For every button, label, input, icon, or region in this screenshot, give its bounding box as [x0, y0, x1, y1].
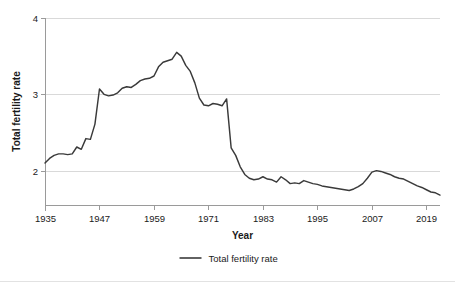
- y-axis-title: Total fertility rate: [11, 71, 22, 152]
- x-axis-title: Year: [232, 230, 253, 241]
- fertility-rate-line-chart: 23419351947195919711983199520072019YearT…: [0, 0, 455, 286]
- x-tick-label-1959: 1959: [144, 213, 165, 224]
- y-tick-label-3: 3: [33, 89, 38, 100]
- x-tick-label-2007: 2007: [362, 213, 383, 224]
- x-tick-label-1935: 1935: [35, 213, 56, 224]
- x-tick-label-2019: 2019: [416, 213, 437, 224]
- x-tick-label-1995: 1995: [307, 213, 328, 224]
- legend-label-0: Total fertility rate: [209, 253, 278, 264]
- y-tick-label-4: 4: [33, 13, 38, 24]
- chart-canvas: 23419351947195919711983199520072019YearT…: [0, 0, 455, 286]
- x-tick-label-1983: 1983: [253, 213, 274, 224]
- x-tick-label-1971: 1971: [198, 213, 219, 224]
- x-tick-label-1947: 1947: [89, 213, 110, 224]
- y-tick-label-2: 2: [33, 166, 38, 177]
- series-line-0: [45, 52, 440, 195]
